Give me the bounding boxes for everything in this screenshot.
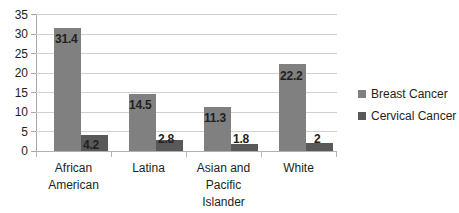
data-label-cervical-cancer-african-american: 4.2 [83, 139, 99, 151]
y-tick-label: 0 [21, 145, 28, 157]
data-label-cervical-cancer-asian-pacific-islander: 1.8 [233, 133, 249, 145]
data-label-breast-cancer-white: 22.2 [280, 70, 303, 82]
legend-item-breast-cancer[interactable]: Breast Cancer [358, 84, 456, 103]
data-label-cervical-cancer-white: 2 [314, 133, 320, 145]
x-axis-category-label-asian-pacific-islander: Asian and Pacific Islander [186, 160, 261, 211]
x-axis-tick [186, 151, 187, 157]
x-axis-tick [111, 151, 112, 157]
legend-label: Cervical Cancer [371, 110, 456, 122]
legend: Breast Cancer Cervical Cancer [358, 84, 456, 128]
x-axis-category-label-white: White [261, 160, 336, 177]
bar-breast-cancer-african-american[interactable] [54, 28, 81, 151]
y-axis-labels: 35 30 25 20 15 10 5 0 [0, 0, 30, 213]
x-axis-category-label-latina: Latina [111, 160, 186, 177]
data-label-cervical-cancer-latina: 2.8 [158, 133, 174, 145]
y-tick-label: 10 [15, 106, 28, 118]
y-tick-label: 25 [15, 48, 28, 60]
y-tick-label: 30 [15, 28, 28, 40]
x-axis-tick [261, 151, 262, 157]
y-tick-label: 15 [15, 87, 28, 99]
data-label-breast-cancer-asian-pacific-islander: 11.3 [204, 112, 226, 124]
legend-item-cervical-cancer[interactable]: Cervical Cancer [358, 106, 456, 125]
legend-swatch-icon [358, 112, 366, 120]
y-tick-label: 5 [21, 126, 28, 138]
x-axis-tick [336, 151, 337, 157]
x-axis-tick [36, 151, 37, 157]
y-tick-label: 35 [15, 9, 28, 21]
bar-chart: 35 30 25 20 15 10 5 0 [0, 0, 459, 213]
x-axis-category-label-african-american: African American [36, 160, 111, 194]
legend-swatch-icon [358, 90, 366, 98]
y-tick-label: 20 [15, 67, 28, 79]
bars-layer: 31.4 4.2 14.5 2.8 11.3 1.8 22.2 2 [36, 14, 337, 151]
data-label-breast-cancer-african-american: 31.4 [55, 33, 78, 45]
data-label-breast-cancer-latina: 14.5 [129, 99, 152, 111]
legend-label: Breast Cancer [371, 88, 448, 100]
